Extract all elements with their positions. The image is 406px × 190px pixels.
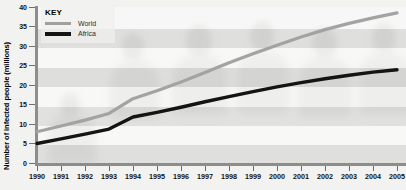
series-line-africa — [37, 70, 397, 144]
legend-item-world: World — [44, 20, 112, 27]
chart-legend: KEY World Africa — [41, 5, 115, 43]
legend-title: KEY — [45, 8, 112, 17]
legend-item-africa: Africa — [44, 30, 112, 37]
chart-figure: 40 35 30 25 20 15 10 5 0 1990 1991 1992 … — [0, 0, 406, 190]
legend-label-africa: Africa — [78, 30, 96, 37]
legend-swatch-africa-icon — [45, 32, 71, 36]
legend-label-world: World — [78, 20, 96, 27]
legend-swatch-world-icon — [45, 22, 71, 25]
